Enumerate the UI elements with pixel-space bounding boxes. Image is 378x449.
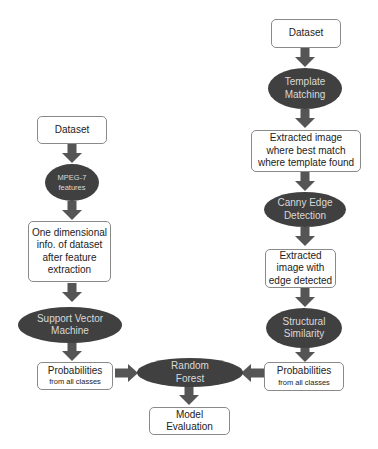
extracted-edge-box: Extracted image with edge detected	[265, 249, 336, 288]
model-eval-line1: Model	[176, 409, 203, 422]
onedim-line4: extraction	[48, 264, 91, 277]
arrow-right-extracted-edge-to-structural	[295, 288, 315, 307]
arrow-right-extracted-to-canny	[295, 172, 315, 191]
extracted-best-line3: where template found	[258, 157, 354, 170]
extracted-best-match-box: Extracted image where best match where t…	[251, 130, 361, 172]
rf-line2: Forest	[176, 373, 204, 386]
template-line2: Matching	[285, 89, 326, 102]
canny-line2: Detection	[284, 210, 326, 223]
canny-line1: Canny Edge	[277, 197, 332, 210]
extracted-best-line2: where best match	[267, 145, 346, 158]
onedim-line1: One dimensional	[32, 227, 107, 240]
right-dataset-label: Dataset	[289, 27, 323, 40]
arrow-left-prob-to-rf	[115, 364, 138, 382]
rf-line1: Random	[171, 360, 209, 373]
onedim-line3: after feature	[43, 252, 97, 265]
model-eval-line2: Evaluation	[166, 421, 213, 434]
arrow-right-prob-to-rf	[241, 364, 264, 382]
left-prob-subtitle: from all classes	[49, 377, 101, 387]
onedim-line2: info. of dataset	[37, 239, 103, 252]
right-prob-title: Probabilities	[277, 365, 331, 378]
model-evaluation-box: Model Evaluation	[149, 407, 230, 435]
left-prob-title: Probabilities	[48, 365, 102, 378]
support-vector-machine-node: Support Vector Machine	[18, 307, 122, 343]
canny-edge-detection-node: Canny Edge Detection	[264, 192, 346, 227]
left-dataset-box: Dataset	[37, 116, 107, 144]
svm-line1: Support Vector	[37, 313, 103, 326]
arrow-left-onedim-to-svm	[62, 283, 82, 302]
right-probabilities-box: Probabilities from all classes	[264, 362, 344, 391]
extracted-edge-line3: edge detected	[269, 275, 332, 288]
left-dataset-label: Dataset	[55, 124, 89, 137]
right-dataset-box: Dataset	[271, 19, 341, 48]
arrow-right-dataset-to-template	[295, 48, 315, 67]
extracted-best-line1: Extracted image	[270, 132, 342, 145]
mpeg7-line2: features	[58, 183, 85, 193]
random-forest-node: Random Forest	[137, 358, 243, 387]
arrow-right-template-to-extracted	[295, 109, 315, 128]
template-line1: Template	[285, 76, 326, 89]
extracted-edge-line1: Extracted	[279, 250, 321, 263]
svm-line2: Machine	[51, 325, 89, 338]
flowchart-canvas: Dataset MPEG-7 features One dimensional …	[0, 0, 378, 449]
structural-similarity-node: Structural Similarity	[266, 308, 342, 348]
mpeg7-line1: MPEG-7	[58, 173, 87, 183]
arrow-left-dataset-to-mpeg7	[62, 144, 82, 163]
structural-line2: Similarity	[284, 328, 325, 341]
one-dimensional-info-box: One dimensional info. of dataset after f…	[28, 221, 111, 282]
arrow-rf-to-model-eval	[179, 386, 199, 405]
mpeg7-features-node: MPEG-7 features	[45, 164, 99, 201]
template-matching-node: Template Matching	[268, 68, 342, 109]
extracted-edge-line2: image with	[277, 262, 325, 275]
right-prob-subtitle: from all classes	[278, 378, 330, 388]
arrow-right-canny-to-extracted-edge	[295, 227, 315, 246]
left-probabilities-box: Probabilities from all classes	[37, 362, 113, 390]
structural-line1: Structural	[283, 316, 326, 329]
arrow-left-mpeg7-to-onedim	[62, 201, 82, 220]
arrow-left-svm-to-prob	[62, 342, 82, 361]
